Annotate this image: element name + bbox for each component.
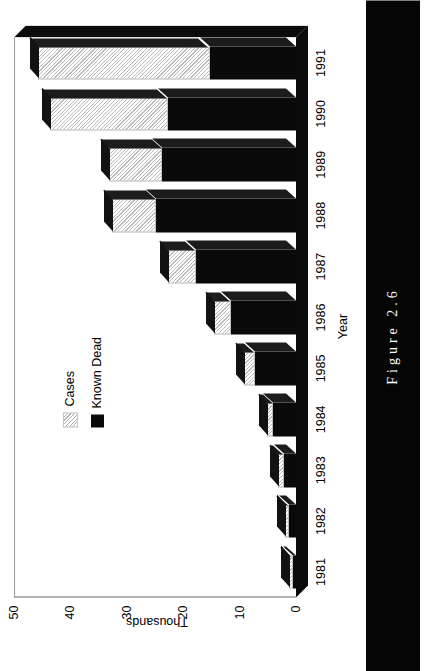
x-tick-label: 1982 (314, 507, 328, 535)
bar-segment-cases[interactable] (168, 249, 196, 283)
bar-segment-cases[interactable] (244, 351, 255, 385)
bar-side-face (158, 88, 296, 97)
x-tick-label: 1990 (314, 99, 328, 127)
plot-right-wall (14, 25, 308, 37)
x-tick-label: 1988 (314, 201, 328, 229)
bar-segment-cases[interactable] (112, 198, 157, 232)
bar-side-face (245, 342, 296, 351)
bar-side-face (186, 240, 296, 249)
bar-segment-known-dead[interactable] (293, 555, 296, 589)
bar-side-face (221, 291, 296, 300)
plot-area: 01020304050 1981198219831984198519861987… (14, 37, 296, 597)
bar-segment-cases[interactable] (109, 147, 163, 181)
bar-group[interactable] (14, 97, 296, 131)
y-tick-label: 40 (63, 605, 77, 619)
bar-segment-known-dead[interactable] (289, 504, 296, 538)
y-tick-label: 20 (176, 605, 190, 619)
bar-group[interactable] (14, 453, 296, 487)
figure-caption-band: Figure 2.6 (366, 0, 420, 671)
x-tick-label: 1983 (314, 456, 328, 484)
bar-segment-cases[interactable] (285, 504, 289, 538)
bar-group[interactable] (14, 402, 296, 436)
bar-segment-known-dead[interactable] (284, 453, 296, 487)
legend-item-known-dead: Known Dead (87, 336, 107, 427)
bar-segment-known-dead[interactable] (231, 300, 296, 334)
x-tick-label: 1989 (314, 150, 328, 178)
x-tick-label: 1985 (314, 354, 328, 382)
bar-segment-known-dead[interactable] (196, 249, 296, 283)
y-tick-label: 0 (289, 605, 303, 612)
bar-group[interactable] (14, 555, 296, 589)
legend: Cases Known Dead (60, 336, 114, 427)
figure-caption: Figure 2.6 (385, 287, 401, 385)
x-tick-label: 1987 (314, 252, 328, 280)
y-tick-label: 10 (233, 605, 247, 619)
y-axis-label: Thousands (97, 614, 217, 628)
bar-segment-known-dead[interactable] (162, 147, 296, 181)
bar-side-face (41, 89, 167, 98)
bar-segment-cases[interactable] (214, 300, 231, 334)
x-axis-label: Year (336, 281, 350, 371)
legend-label-cases: Cases (60, 371, 80, 406)
legend-swatch-known-dead-icon (91, 414, 104, 427)
bar-group[interactable] (14, 46, 296, 80)
x-tick-label: 1991 (314, 49, 328, 77)
bar-segment-cases[interactable] (289, 555, 292, 589)
bar-segment-cases[interactable] (50, 97, 168, 131)
bar-segment-known-dead[interactable] (210, 46, 296, 80)
chart: Thousands Year 01020304050 1981198219831… (0, 0, 360, 671)
x-tick-label: 1986 (314, 303, 328, 331)
legend-label-known-dead: Known Dead (87, 336, 107, 408)
bar-side-face (29, 38, 208, 47)
plot-floor (296, 25, 308, 597)
bar-segment-known-dead[interactable] (168, 97, 296, 131)
bar-segment-cases[interactable] (38, 46, 209, 80)
bar-segment-cases[interactable] (267, 402, 274, 436)
x-tick-label: 1984 (314, 405, 328, 433)
bar-side-face (200, 37, 296, 46)
legend-swatch-cases-icon (63, 412, 78, 427)
bar-segment-known-dead[interactable] (156, 198, 296, 232)
bar-group[interactable] (14, 351, 296, 385)
bar-side-face (152, 138, 296, 147)
bar-group[interactable] (14, 198, 296, 232)
legend-item-cases: Cases (60, 336, 80, 427)
bar-group[interactable] (14, 147, 296, 181)
bar-segment-known-dead[interactable] (273, 402, 296, 436)
bar-group[interactable] (14, 300, 296, 334)
bar-group[interactable] (14, 249, 296, 283)
figure-page: Thousands Year 01020304050 1981198219831… (0, 0, 434, 671)
x-tick-label: 1981 (314, 558, 328, 586)
y-tick-label: 50 (7, 605, 21, 619)
bar-segment-cases[interactable] (278, 453, 284, 487)
bar-segment-known-dead[interactable] (255, 351, 296, 385)
rotated-figure-stage: Thousands Year 01020304050 1981198219831… (0, 0, 434, 671)
bar-side-face (146, 189, 296, 198)
bar-group[interactable] (14, 504, 296, 538)
y-tick-label: 30 (120, 605, 134, 619)
